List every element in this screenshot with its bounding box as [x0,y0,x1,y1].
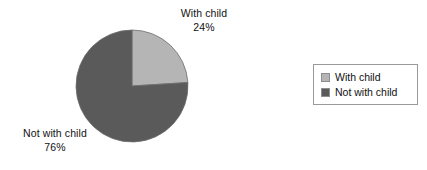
pie-slice-with-child[interactable] [132,30,188,86]
callout-not-with-child-value: 76% [2,140,108,154]
callout-not-with-child: Not with child 76% [2,126,108,154]
legend-label-not-with-child: Not with child [335,86,397,99]
legend-swatch-with-child [321,73,330,82]
callout-not-with-child-label: Not with child [2,126,108,140]
callout-with-child: With child 24% [150,6,258,34]
legend-item-not-with-child[interactable]: Not with child [321,85,411,100]
legend-item-with-child[interactable]: With child [321,70,411,85]
callout-with-child-value: 24% [150,20,258,34]
callout-with-child-label: With child [150,6,258,20]
legend-label-with-child: With child [335,71,381,84]
legend-swatch-not-with-child [321,88,330,97]
chart-legend: With child Not with child [313,64,418,105]
pie-chart: With child 24% Not with child 76% With c… [0,0,427,170]
